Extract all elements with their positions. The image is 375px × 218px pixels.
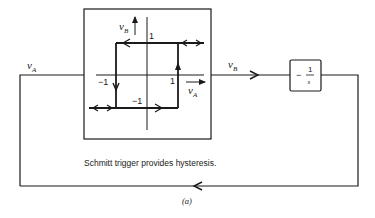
block-diagram: vA vB vB vA 1 −1 1 −1 <box>0 0 375 218</box>
integrator-sign: − <box>296 70 301 80</box>
y-high-label: 1 <box>149 31 154 41</box>
integrator-block: − 1 s <box>290 60 321 91</box>
integrator-numerator: 1 <box>308 65 313 74</box>
input-wire <box>20 75 84 186</box>
output-signal-label: vB <box>228 58 238 73</box>
figure-label: (a) <box>182 196 192 206</box>
integrator-denominator: s <box>308 78 311 86</box>
x-low-label: −1 <box>98 77 108 87</box>
input-signal-label: vA <box>27 59 37 74</box>
schmitt-trigger-block: vB vA 1 −1 1 −1 <box>84 9 211 139</box>
caption: Schmitt trigger provides hysteresis. <box>84 158 216 168</box>
y-low-label: −1 <box>132 96 142 106</box>
x-high-label: 1 <box>170 76 175 86</box>
